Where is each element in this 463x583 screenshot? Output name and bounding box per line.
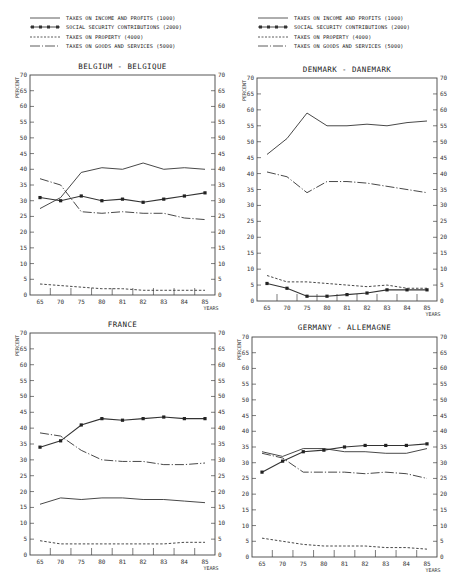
square-marker bbox=[384, 444, 387, 447]
x-tick-label: 70 bbox=[279, 560, 287, 567]
x-tick-label: 80 bbox=[98, 298, 106, 305]
y-tick-label-left: 65 bbox=[247, 90, 255, 97]
y-tick-label-right: 30 bbox=[440, 201, 448, 208]
x-tick-label: 82 bbox=[140, 558, 148, 565]
square-marker bbox=[142, 201, 145, 204]
x-axis-title: YEARS bbox=[203, 565, 218, 571]
y-tick-label-right: 60 bbox=[440, 364, 448, 371]
y-tick-label-left: 45 bbox=[20, 408, 28, 415]
square-marker bbox=[425, 442, 428, 445]
y-tick-label-left: 40 bbox=[20, 424, 28, 431]
y-tick-label-right: 5 bbox=[440, 281, 444, 288]
x-tick-label: 83 bbox=[160, 558, 168, 565]
x-tick-label: 84 bbox=[403, 304, 411, 311]
x-tick-label: 83 bbox=[383, 304, 391, 311]
y-tick-label-left: 70 bbox=[242, 333, 250, 340]
x-tick-label: 80 bbox=[323, 304, 331, 311]
x-tick-label: 85 bbox=[201, 558, 209, 565]
y-tick-label-left: 30 bbox=[247, 201, 255, 208]
x-tick-label: 83 bbox=[382, 560, 390, 567]
y-tick-label-left: 0 bbox=[245, 553, 249, 560]
y-tick-label-right: 30 bbox=[218, 197, 226, 204]
y-tick-label-left: 70 bbox=[247, 74, 255, 81]
y-tick-label-right: 25 bbox=[440, 217, 448, 224]
square-marker bbox=[59, 439, 62, 442]
y-tick-label-right: 40 bbox=[218, 424, 226, 431]
x-axis-title: YEARS bbox=[203, 305, 218, 311]
square-marker bbox=[59, 199, 62, 202]
goods-services-line bbox=[267, 172, 427, 193]
square-marker bbox=[425, 288, 428, 291]
y-tick-label-left: 5 bbox=[245, 537, 249, 544]
y-tick-label-left: 30 bbox=[242, 459, 250, 466]
square-marker bbox=[100, 199, 103, 202]
y-tick-label-right: 5 bbox=[218, 275, 222, 282]
y-tick-label-left: 25 bbox=[20, 212, 28, 219]
y-tick-label-right: 20 bbox=[218, 488, 226, 495]
y-tick-label-left: 55 bbox=[20, 118, 28, 125]
square-marker bbox=[183, 417, 186, 420]
y-tick-label-right: 70 bbox=[440, 74, 448, 81]
x-tick-label: 75 bbox=[78, 298, 86, 305]
square-marker bbox=[203, 191, 206, 194]
y-tick-label-left: 55 bbox=[247, 122, 255, 129]
y-tick-label-left: 50 bbox=[20, 392, 28, 399]
y-tick-label-left: 60 bbox=[20, 361, 28, 368]
y-tick-label-left: 0 bbox=[250, 297, 254, 304]
y-tick-label-left: 35 bbox=[247, 186, 255, 193]
y-tick-label-left: 60 bbox=[242, 364, 250, 371]
square-marker bbox=[80, 423, 83, 426]
x-tick-label: 85 bbox=[423, 560, 431, 567]
y-tick-label-left: 55 bbox=[20, 377, 28, 384]
y-tick-label-left: 65 bbox=[20, 345, 28, 352]
square-marker bbox=[281, 460, 284, 463]
x-tick-label: 65 bbox=[36, 558, 44, 565]
y-tick-label-right: 70 bbox=[218, 71, 226, 78]
square-marker bbox=[302, 450, 305, 453]
y-tick-label-left: 5 bbox=[250, 281, 254, 288]
square-marker bbox=[162, 198, 165, 201]
y-tick-label-right: 70 bbox=[440, 333, 448, 340]
y-tick-label-left: 60 bbox=[247, 106, 255, 113]
y-tick-label-left: 20 bbox=[242, 490, 250, 497]
x-tick-label: 65 bbox=[36, 298, 44, 305]
y-tick-label-left: 15 bbox=[247, 249, 255, 256]
y-tick-label-right: 35 bbox=[218, 440, 226, 447]
y-tick-label-left: 40 bbox=[247, 170, 255, 177]
y-tick-label-right: 15 bbox=[218, 244, 226, 251]
square-marker bbox=[285, 287, 288, 290]
income-line bbox=[267, 113, 427, 154]
property-line bbox=[267, 276, 427, 289]
y-axis-title: PERCENT bbox=[14, 335, 20, 356]
x-tick-label: 85 bbox=[423, 304, 431, 311]
square-marker bbox=[121, 198, 124, 201]
y-tick-label-right: 10 bbox=[440, 522, 448, 529]
chart-denmark: 0055101015152020252530303535404045455050… bbox=[241, 74, 448, 317]
y-tick-label-right: 30 bbox=[218, 456, 226, 463]
y-tick-label-left: 50 bbox=[242, 396, 250, 403]
y-tick-label-right: 15 bbox=[440, 506, 448, 513]
y-tick-label-right: 50 bbox=[440, 138, 448, 145]
x-tick-label: 84 bbox=[403, 560, 411, 567]
y-tick-label-right: 30 bbox=[440, 459, 448, 466]
y-tick-label-left: 40 bbox=[20, 165, 28, 172]
y-tick-label-left: 0 bbox=[23, 551, 27, 558]
square-marker bbox=[343, 445, 346, 448]
y-tick-label-right: 35 bbox=[218, 181, 226, 188]
y-tick-label-right: 0 bbox=[218, 291, 222, 298]
y-tick-label-left: 50 bbox=[20, 134, 28, 141]
y-tick-label-right: 65 bbox=[440, 349, 448, 356]
y-tick-label-left: 45 bbox=[247, 154, 255, 161]
income-line bbox=[262, 449, 427, 457]
square-marker bbox=[203, 417, 206, 420]
square-marker bbox=[38, 196, 41, 199]
x-tick-label: 81 bbox=[119, 558, 127, 565]
y-tick-label-left: 25 bbox=[242, 474, 250, 481]
y-tick-label-right: 70 bbox=[218, 329, 226, 336]
y-tick-label-right: 40 bbox=[440, 427, 448, 434]
plot-frame bbox=[30, 333, 215, 555]
y-tick-label-left: 10 bbox=[247, 265, 255, 272]
y-tick-label-right: 15 bbox=[440, 249, 448, 256]
y-tick-label-right: 55 bbox=[440, 380, 448, 387]
y-tick-label-left: 10 bbox=[242, 522, 250, 529]
